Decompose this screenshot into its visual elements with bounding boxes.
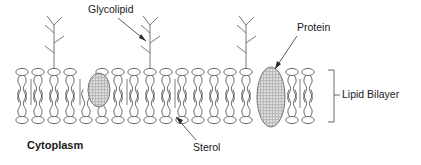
label-lipid-bilayer: Lipid Bilayer <box>342 88 399 100</box>
glycolipid-arrow <box>118 18 146 41</box>
label-glycolipid: Glycolipid <box>88 3 134 15</box>
label-cytoplasm: Cytoplasm <box>27 139 83 151</box>
protein-large <box>257 67 285 127</box>
protein-small <box>88 73 110 107</box>
protein-arrow <box>275 36 297 69</box>
label-protein: Protein <box>297 21 330 33</box>
label-sterol: Sterol <box>193 141 220 153</box>
sterol-arrow <box>176 117 196 140</box>
lipid-bilayer-bracket <box>328 70 340 122</box>
membrane-diagram: Glycolipid Protein Lipid Bilayer Sterol … <box>0 0 421 165</box>
glycolipid-group <box>45 16 256 69</box>
